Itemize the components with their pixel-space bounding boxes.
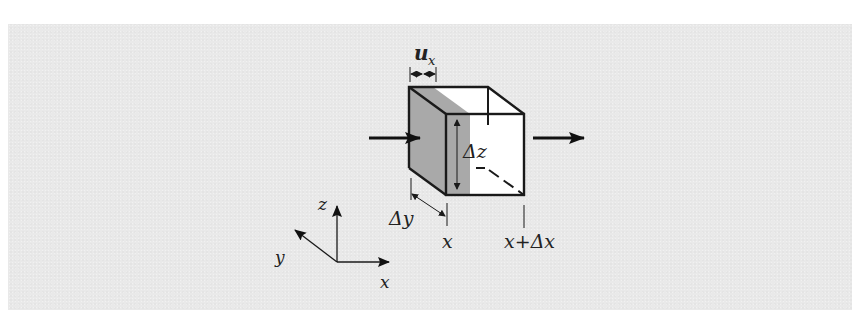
displacement-label: u: [414, 41, 429, 65]
coordinate-axes: [295, 206, 389, 262]
displacement-subscript: x: [428, 53, 436, 68]
displacement-marker: [410, 67, 436, 82]
right-position-label: x+Δx: [504, 230, 555, 252]
x-axis-label: x: [380, 272, 390, 292]
height-label: Δz: [462, 140, 488, 162]
y-axis-arrow-icon: [295, 230, 337, 262]
depth-label: Δy: [388, 207, 414, 229]
z-axis-label: z: [317, 194, 328, 214]
y-axis-label: y: [274, 247, 285, 267]
cube-diagram: Δz u x Δy x x+Δx z y x: [0, 0, 860, 321]
depth-dimension-arrow: [412, 194, 445, 216]
left-position-label: x: [442, 230, 453, 252]
